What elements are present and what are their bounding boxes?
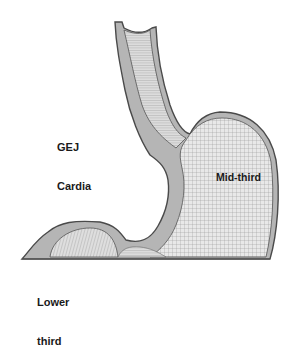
label-gej-line2: Cardia [57, 180, 91, 193]
label-lower-line1: Lower [37, 296, 69, 309]
label-gej-line1: GEJ [57, 141, 91, 154]
label-lower-line2: third [37, 335, 69, 348]
label-mid-third: Mid-third [216, 171, 261, 184]
label-lower-third: Lower third [37, 270, 69, 349]
label-gej-cardia: GEJ Cardia [57, 115, 91, 206]
